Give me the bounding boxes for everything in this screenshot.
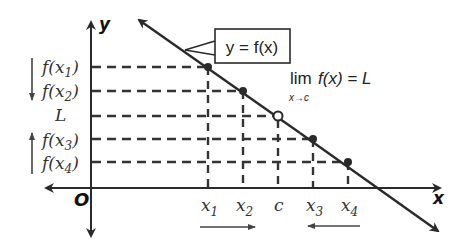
lim-fx: f(x) = L: [318, 69, 371, 88]
svg-text:x1: x1: [201, 195, 218, 219]
svg-text:x4: x4: [341, 195, 358, 219]
x-labels: x1 x2 c x3 x4: [201, 195, 358, 219]
y-axis-label: y: [99, 14, 111, 34]
open-point-c: [274, 112, 283, 121]
point-x4: [344, 158, 352, 166]
origin-label: O: [74, 189, 89, 210]
limit-diagram: y = f(x) lim f(x) = L x→c f(x1) f(x2) L …: [0, 0, 458, 248]
svg-text:f(x1): f(x1): [40, 57, 79, 80]
lim-subscript: x→c: [288, 92, 309, 103]
x-axis-label: x: [432, 188, 445, 208]
point-x2: [239, 87, 247, 95]
lim-text: lim: [290, 69, 312, 88]
point-x3: [309, 135, 317, 143]
curve-label-callout: y = f(x): [185, 29, 290, 63]
svg-text:f(x2): f(x2): [40, 81, 79, 104]
curve-label: y = f(x): [226, 38, 278, 57]
svg-text:f(x3): f(x3): [40, 130, 79, 153]
y-labels: f(x1) f(x2) L f(x3) f(x4): [40, 57, 79, 176]
y-label-L: L: [54, 105, 66, 125]
point-x1: [204, 63, 212, 71]
svg-text:x3: x3: [306, 195, 324, 219]
svg-text:x2: x2: [236, 195, 253, 219]
x-label-c: c: [274, 195, 284, 215]
limit-expression: lim f(x) = L x→c: [288, 69, 371, 103]
svg-text:f(x4): f(x4): [40, 153, 79, 176]
